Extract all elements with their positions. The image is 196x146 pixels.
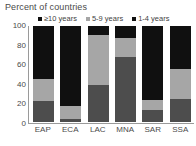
bar-segment[interactable] <box>115 57 136 122</box>
bar-segment[interactable] <box>115 38 136 56</box>
bar-segment[interactable] <box>88 85 109 122</box>
plot-wrapper: 100806040200 EAPECALACMNASARSSA <box>0 0 196 146</box>
x-tick-label-eap: EAP <box>29 126 56 134</box>
bar-column-mna[interactable] <box>112 26 139 122</box>
bar-segment[interactable] <box>60 26 81 106</box>
bar-column-lac[interactable] <box>85 26 112 122</box>
stacked-bar[interactable] <box>33 26 54 122</box>
bar-segment[interactable] <box>33 79 54 101</box>
stacked-bar[interactable] <box>170 26 191 122</box>
bar-segment[interactable] <box>170 99 191 122</box>
bar-segment[interactable] <box>60 119 81 122</box>
y-tick-label: 100 <box>13 22 26 30</box>
bar-segment[interactable] <box>60 106 81 119</box>
x-tick-label-mna: MNA <box>112 126 139 134</box>
x-axis: EAPECALACMNASARSSA <box>29 126 194 134</box>
bar-segment[interactable] <box>170 26 191 69</box>
plot-area <box>28 26 194 124</box>
bar-column-sar[interactable] <box>139 26 166 122</box>
bar-column-ssa[interactable] <box>167 26 194 122</box>
stacked-bar[interactable] <box>115 26 136 122</box>
x-tick-label-eca: ECA <box>57 126 84 134</box>
bar-segment[interactable] <box>142 100 163 111</box>
x-tick-label-ssa: SSA <box>167 126 194 134</box>
bar-segment[interactable] <box>88 26 109 35</box>
x-tick-label-lac: LAC <box>84 126 111 134</box>
bar-segment[interactable] <box>88 35 109 85</box>
bar-segment[interactable] <box>33 26 54 79</box>
chart-container: Percent of countries ≥10 years 5-9 years… <box>0 0 196 146</box>
bar-segment[interactable] <box>115 26 136 38</box>
y-tick-label: 20 <box>17 100 26 108</box>
bar-column-eap[interactable] <box>30 26 57 122</box>
y-tick-label: 60 <box>17 61 26 69</box>
y-tick-label: 0 <box>22 120 26 128</box>
bar-segment[interactable] <box>170 69 191 99</box>
x-tick-label-sar: SAR <box>139 126 166 134</box>
bar-column-eca[interactable] <box>57 26 84 122</box>
stacked-bar[interactable] <box>142 26 163 122</box>
y-axis: 100806040200 <box>2 26 26 124</box>
bar-group <box>30 26 194 122</box>
bar-segment[interactable] <box>33 101 54 122</box>
y-tick-label: 80 <box>17 42 26 50</box>
y-tick-label: 40 <box>17 81 26 89</box>
bar-segment[interactable] <box>142 26 163 100</box>
stacked-bar[interactable] <box>88 26 109 122</box>
bar-segment[interactable] <box>142 110 163 122</box>
stacked-bar[interactable] <box>60 26 81 122</box>
